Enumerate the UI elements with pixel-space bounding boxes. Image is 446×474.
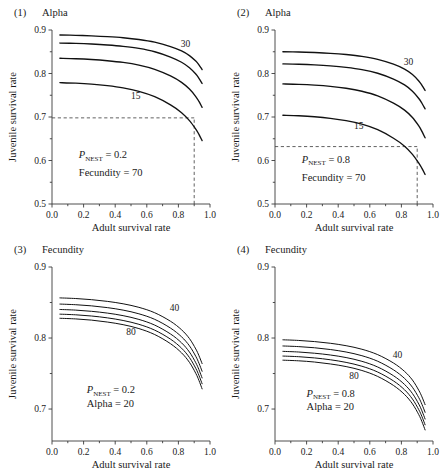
curve-label-15: 15 xyxy=(131,91,141,101)
curve-label-80: 80 xyxy=(349,371,359,381)
chart-panel-1: (1)Alpha0.50.60.70.80.90.00.20.40.60.81.… xyxy=(0,0,223,237)
y-tick-label: 0.8 xyxy=(257,333,269,343)
y-tick-label: 0.9 xyxy=(34,25,46,35)
x-tick-label: 0.0 xyxy=(46,210,58,220)
x-tick-label: 1.0 xyxy=(427,210,439,220)
x-tick-label: 0.2 xyxy=(78,210,90,220)
x-axis-title: Adult survival rate xyxy=(92,459,171,470)
annotation-subscript: NEST xyxy=(308,159,326,167)
panel-header-title: Alpha xyxy=(42,7,68,18)
x-tick-label: 0.4 xyxy=(109,447,121,457)
panel-header-title: Alpha xyxy=(265,7,291,18)
data-curve-50 xyxy=(60,304,202,371)
x-tick-label: 0.4 xyxy=(109,210,121,220)
x-tick-label: 1.0 xyxy=(204,210,216,220)
curve-label-30: 30 xyxy=(404,57,414,67)
x-tick-label: 0.4 xyxy=(332,210,344,220)
x-tick-label: 0.6 xyxy=(141,210,153,220)
data-curve-25 xyxy=(283,64,425,109)
annotation-subscript: NEST xyxy=(93,390,111,398)
y-tick-label: 0.8 xyxy=(34,333,46,343)
y-axis-title: Juvenile survival rate xyxy=(7,72,18,162)
x-tick-label: 0.2 xyxy=(301,210,313,220)
y-tick-label: 0.5 xyxy=(257,199,269,209)
annotation-value: = 0.2 xyxy=(111,384,135,395)
x-tick-label: 0.8 xyxy=(395,210,407,220)
y-tick-label: 0.9 xyxy=(34,262,46,272)
y-tick-label: 0.7 xyxy=(34,404,46,414)
chart-panel-2: (2)Alpha0.50.60.70.80.90.00.20.40.60.81.… xyxy=(223,0,446,237)
y-axis-title: Juvenile survival rate xyxy=(230,309,241,399)
annotation-value: = 0.8 xyxy=(326,154,350,165)
y-axis-title: Juvenile survival rate xyxy=(7,309,18,399)
y-tick-label: 0.7 xyxy=(257,112,269,122)
x-tick-label: 0.6 xyxy=(364,210,376,220)
curve-label-40: 40 xyxy=(170,303,180,313)
panel-annotation-0: PNEST = 0.2 xyxy=(78,149,127,162)
x-tick-label: 0.2 xyxy=(78,447,90,457)
x-axis-title: Adult survival rate xyxy=(315,459,394,470)
annotation-subscript: NEST xyxy=(85,155,103,163)
x-tick-label: 0.6 xyxy=(364,447,376,457)
x-tick-label: 1.0 xyxy=(427,447,439,457)
chart-panel-3: (3)Fecundity0.70.80.90.00.20.40.60.81.0A… xyxy=(0,237,223,474)
y-tick-label: 0.9 xyxy=(257,25,269,35)
y-tick-label: 0.7 xyxy=(257,404,269,414)
y-axis-title: Juvenile survival rate xyxy=(230,72,241,162)
chart-svg-2: (2)Alpha0.50.60.70.80.90.00.20.40.60.81.… xyxy=(223,0,446,237)
panel-number: (1) xyxy=(14,7,27,19)
panel-number: (4) xyxy=(237,244,250,256)
x-axis-title: Adult survival rate xyxy=(92,222,171,233)
chart-svg-4: (4)Fecundity0.70.80.90.00.20.40.60.81.0A… xyxy=(223,237,446,474)
panel-annotation-1: Fecundity = 70 xyxy=(79,167,143,178)
curve-label-30: 30 xyxy=(181,39,191,49)
x-tick-label: 0.8 xyxy=(172,447,184,457)
y-tick-label: 0.6 xyxy=(257,156,269,166)
y-tick-label: 0.6 xyxy=(34,156,46,166)
x-tick-label: 0.0 xyxy=(269,210,281,220)
annotation-value: = 0.8 xyxy=(331,388,355,399)
panel-annotation-0: PNEST = 0.8 xyxy=(306,388,355,401)
x-tick-label: 0.6 xyxy=(141,447,153,457)
curve-label-15: 15 xyxy=(354,121,364,131)
curve-label-40: 40 xyxy=(393,350,403,360)
panel-annotation-1: Fecundity = 70 xyxy=(302,172,366,183)
x-tick-label: 0.0 xyxy=(269,447,281,457)
x-tick-label: 0.0 xyxy=(46,447,58,457)
chart-panel-4: (4)Fecundity0.70.80.90.00.20.40.60.81.0A… xyxy=(223,237,446,474)
chart-svg-3: (3)Fecundity0.70.80.90.00.20.40.60.81.0A… xyxy=(0,237,223,474)
curve-label-80: 80 xyxy=(126,327,136,337)
x-tick-label: 0.4 xyxy=(332,447,344,457)
panel-annotation-0: PNEST = 0.2 xyxy=(86,384,135,397)
x-tick-label: 0.8 xyxy=(172,210,184,220)
y-tick-label: 0.8 xyxy=(34,69,46,79)
panel-header-title: Fecundity xyxy=(265,244,308,255)
annotation-subscript: NEST xyxy=(313,393,331,401)
x-axis-title: Adult survival rate xyxy=(315,222,394,233)
panel-number: (3) xyxy=(14,244,27,256)
y-tick-label: 0.5 xyxy=(34,199,46,209)
x-tick-label: 0.2 xyxy=(301,447,313,457)
x-tick-label: 0.8 xyxy=(395,447,407,457)
panel-annotation-1: Alpha = 20 xyxy=(87,398,134,409)
annotation-value: = 0.2 xyxy=(103,149,127,160)
figure-panel-grid: (1)Alpha0.50.60.70.80.90.00.20.40.60.81.… xyxy=(0,0,446,474)
y-tick-label: 0.8 xyxy=(257,69,269,79)
y-tick-label: 0.9 xyxy=(257,262,269,272)
y-tick-label: 0.7 xyxy=(34,112,46,122)
panel-number: (2) xyxy=(237,7,250,19)
x-tick-label: 1.0 xyxy=(204,447,216,457)
chart-svg-1: (1)Alpha0.50.60.70.80.90.00.20.40.60.81.… xyxy=(0,0,223,237)
panel-annotation-1: Alpha = 20 xyxy=(307,401,354,412)
panel-header-title: Fecundity xyxy=(42,244,85,255)
panel-annotation-0: PNEST = 0.8 xyxy=(301,154,350,167)
data-curve-70 xyxy=(60,314,202,384)
